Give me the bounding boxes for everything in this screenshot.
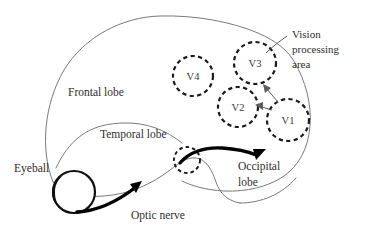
optic-nerve-label: Optic nerve <box>131 209 185 222</box>
v3-label: V3 <box>249 58 262 69</box>
eyeball-label: Eyeball <box>14 162 49 175</box>
vision-area-label-line3: area <box>292 58 310 70</box>
visual-area-v1[interactable]: V1 <box>267 99 309 141</box>
eyeball <box>52 171 95 213</box>
vision-area-label-line2: processing <box>292 43 340 55</box>
brain-vision-diagram: V4 V3 V2 V1 F <box>0 0 367 230</box>
frontal-lobe-label: Frontal lobe <box>68 86 124 98</box>
occipital-lobe-label-line2: lobe <box>238 176 258 188</box>
v1-to-v3-arrowhead <box>263 84 271 93</box>
eyeball-sclera <box>53 171 95 213</box>
visual-area-v3[interactable]: V3 <box>234 42 276 84</box>
visual-areas-group: V4 V3 V2 V1 <box>173 42 309 141</box>
occipital-lobe-label-line1: Occipital <box>238 160 280 173</box>
v1-label: V1 <box>282 115 295 126</box>
visual-area-v2[interactable]: V2 <box>218 87 258 127</box>
v4-label: V4 <box>187 71 201 82</box>
vision-area-label-line1: Vision <box>292 28 321 40</box>
diagram-canvas: V4 V3 V2 V1 F <box>0 0 367 230</box>
temporal-lobe-label: Temporal lobe <box>100 128 167 141</box>
optic-tract-arrowhead <box>253 149 266 160</box>
v2-label: V2 <box>232 102 245 113</box>
visual-area-v4[interactable]: V4 <box>173 56 213 96</box>
